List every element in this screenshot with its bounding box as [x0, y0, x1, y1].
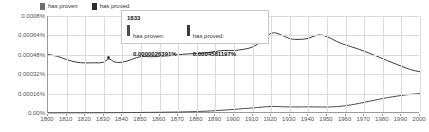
y-axis-tick-label: 0.00064%: [18, 32, 45, 38]
tooltip-row-has-proven: has proven: 0.0000026391%: [127, 24, 177, 60]
x-axis-tick-label: 1800: [40, 116, 53, 123]
tooltip-row-has-proved: has proved: 0.0004581197%: [187, 24, 236, 60]
tooltip-entry: has proven: 0.0000026391%: [133, 24, 177, 60]
x-axis-tick-label: 1870: [171, 116, 184, 123]
legend-swatch-icon: [92, 3, 97, 10]
x-axis-tick-label: 1940: [301, 116, 314, 123]
gridline-vertical: [327, 16, 328, 112]
gridline-horizontal: [48, 74, 419, 75]
tooltip-swatch-icon: [127, 25, 130, 36]
y-axis-tick-label: 0.00048%: [18, 52, 45, 58]
tooltip-series-value: 0.0004581197%: [193, 51, 236, 57]
tooltip-swatch-icon: [187, 25, 190, 36]
gridline-vertical: [383, 16, 384, 112]
x-axis-tick-label: 1890: [208, 116, 221, 123]
tooltip-year: 1833: [127, 14, 263, 22]
gridline-vertical: [85, 16, 86, 112]
legend-item-has-proved[interactable]: has proved: [92, 3, 130, 10]
legend-label: has proved: [100, 3, 130, 10]
legend-swatch-icon: [40, 3, 45, 10]
gridline-vertical: [308, 16, 309, 112]
y-axis-tick-label: 0.00032%: [18, 71, 45, 77]
gridline-vertical: [401, 16, 402, 112]
chart-legend: has proven has proved: [40, 1, 129, 11]
gridline-vertical: [67, 16, 68, 112]
x-axis-tick-label: 1850: [133, 116, 146, 123]
tooltip-series-value: 0.0000026391%: [133, 51, 177, 57]
gridline-vertical: [271, 16, 272, 112]
x-axis-tick-label: 1820: [78, 116, 91, 123]
x-axis-tick-label: 1830: [96, 116, 109, 123]
ngram-chart-widget: has proven has proved 0.00%0.00016%0.000…: [0, 0, 429, 132]
x-axis-tick-label: 1810: [59, 116, 72, 123]
tooltip-series-name: has proved:: [193, 33, 224, 39]
x-axis-tick-label: 1910: [245, 116, 258, 123]
x-axis-tick-label: 1900: [226, 116, 239, 123]
tooltip-entry: has proved: 0.0004581197%: [193, 24, 236, 60]
x-axis-tick-label: 2000: [412, 116, 425, 123]
legend-item-has-proven[interactable]: has proven: [40, 3, 78, 10]
x-axis-tick-label: 1990: [394, 116, 407, 123]
x-axis-tick-label: 1920: [264, 116, 277, 123]
y-axis: 0.00%0.00016%0.00032%0.00048%0.00064%0.0…: [0, 16, 45, 113]
gridline-vertical: [346, 16, 347, 112]
gridline-horizontal: [48, 94, 419, 95]
x-axis-tick-label: 1950: [319, 116, 332, 123]
y-axis-tick-label: 0.0008%: [21, 13, 45, 19]
y-axis-tick-label: 0.00016%: [18, 91, 45, 97]
gridline-vertical: [364, 16, 365, 112]
x-axis-tick-label: 1970: [357, 116, 370, 123]
x-axis-tick-label: 1860: [152, 116, 165, 123]
gridline-vertical: [290, 16, 291, 112]
tooltip-rows: has proven: 0.0000026391% has proved: 0.…: [127, 24, 263, 60]
gridline-vertical: [104, 16, 105, 112]
x-axis-tick-label: 1960: [338, 116, 351, 123]
legend-label: has proven: [48, 3, 78, 10]
gridline-vertical: [420, 16, 421, 112]
tooltip-series-name: has proven:: [133, 33, 164, 39]
chart-tooltip: 1833 has proven: 0.0000026391% has prove…: [121, 10, 269, 44]
x-axis-tick-label: 1980: [375, 116, 388, 123]
hover-marker-has-proved: [107, 56, 110, 59]
x-axis-tick-label: 1880: [189, 116, 202, 123]
x-axis-tick-label: 1930: [282, 116, 295, 123]
x-axis: 1800181018201830184018501860187018801890…: [47, 114, 419, 128]
x-axis-tick-label: 1840: [115, 116, 128, 123]
